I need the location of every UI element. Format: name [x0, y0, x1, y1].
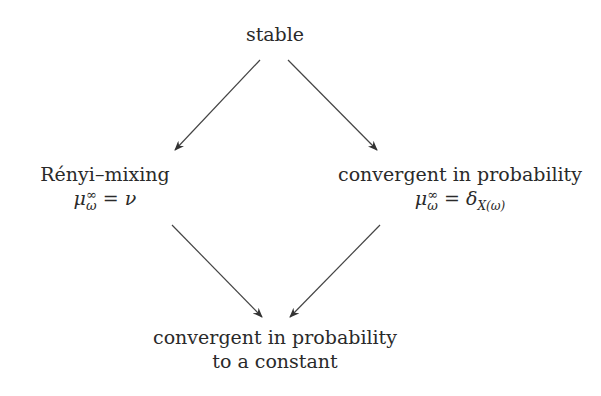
arrow-top-to-left: [175, 60, 260, 150]
node-convergent-to-constant: convergent in probability to a constant: [140, 325, 410, 373]
node-bottom-line1: convergent in probability: [140, 325, 410, 349]
node-renyi-label: Rényi–mixing: [0, 162, 210, 186]
arrow-right-to-bottom: [290, 225, 380, 317]
node-convergent-in-probability: convergent in probability μ∞ω = δX(ω): [330, 162, 590, 218]
arrow-left-to-bottom: [172, 225, 262, 317]
node-cip-label: convergent in probability: [330, 162, 590, 186]
node-stable: stable: [200, 22, 350, 46]
node-cip-formula: μ∞ω = δX(ω): [330, 186, 590, 218]
node-renyi-formula: μ∞ω = ν: [0, 186, 210, 211]
arrow-top-to-right: [288, 60, 377, 150]
node-stable-label: stable: [246, 23, 304, 45]
node-bottom-line2: to a constant: [140, 349, 410, 373]
node-renyi-mixing: Rényi–mixing μ∞ω = ν: [0, 162, 210, 211]
